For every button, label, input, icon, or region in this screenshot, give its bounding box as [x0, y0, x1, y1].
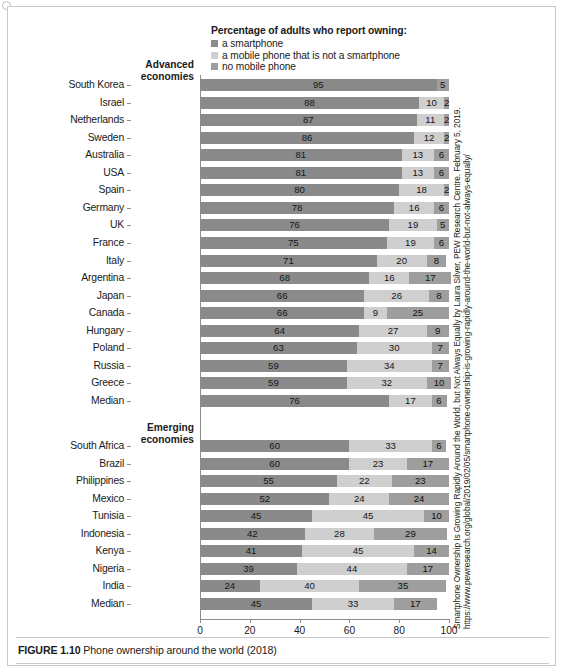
row-label: Netherlands [16, 113, 124, 127]
bar-segment-value: 66 [200, 307, 364, 319]
bar-segment-no-mobile-phone: 17 [394, 598, 436, 610]
bar-segment-no-mobile-phone: 24 [389, 493, 449, 505]
row-tick-mark [127, 348, 131, 349]
bar-segment-a-mobile-phone-that-is-not-a-smartphone: 45 [302, 545, 414, 557]
bar-segment-value: 71 [200, 255, 377, 267]
bar-segment-value: 17 [389, 395, 431, 407]
x-axis-tick [449, 619, 450, 623]
bar-segment-a-smartphone: 86 [200, 132, 414, 144]
row-label: Poland [16, 341, 124, 355]
chart-row: UK76195 [16, 218, 444, 232]
chart-row: USA81136 [16, 166, 444, 180]
bar-segment-value: 23 [349, 458, 406, 470]
bar-segment-value: 24 [329, 493, 389, 505]
bar-segment-no-mobile-phone: 2 [444, 132, 449, 144]
row-label: Canada [16, 306, 124, 320]
stacked-bar: 87112 [200, 114, 449, 126]
chart-row: South Africa60336 [16, 439, 444, 453]
bar-segment-a-mobile-phone-that-is-not-a-smartphone: 19 [387, 237, 434, 249]
stacked-bar: 80182 [200, 184, 449, 196]
bar-segment-value: 30 [357, 342, 432, 354]
bar-segment-value: 17 [407, 563, 449, 575]
chart-row: Nigeria394417 [16, 562, 444, 576]
row-tick-mark [127, 138, 131, 139]
row-label: South Africa [16, 439, 124, 453]
bar-segment-a-smartphone: 59 [200, 360, 347, 372]
bar-segment-value: 7 [432, 360, 449, 372]
bar-segment-a-smartphone: 81 [200, 167, 402, 179]
row-tick-mark [127, 551, 131, 552]
stacked-bar: 552223 [200, 475, 449, 487]
figure-card: Percentage of adults who report owning: … [7, 6, 556, 666]
x-axis-tick [399, 619, 400, 623]
row-label: Argentina [16, 271, 124, 285]
row-label: South Korea [16, 78, 124, 92]
row-tick-mark [127, 481, 131, 482]
bar-segment-a-smartphone: 66 [200, 307, 364, 319]
row-tick-mark [127, 173, 131, 174]
bar-segment-no-mobile-phone: 5 [437, 79, 449, 91]
stacked-bar: 422829 [200, 528, 449, 540]
stacked-bar: 593210 [200, 377, 449, 389]
chart-row: France75196 [16, 236, 444, 250]
figure-caption-text: Phone ownership around the world (2018) [83, 644, 276, 656]
bar-segment-a-smartphone: 39 [200, 563, 297, 575]
row-tick-mark [127, 534, 131, 535]
bar-segment-a-mobile-phone-that-is-not-a-smartphone: 26 [364, 290, 429, 302]
stacked-bar: 64279 [200, 325, 449, 337]
bar-segment-value: 45 [200, 510, 312, 522]
row-label: USA [16, 166, 124, 180]
row-tick-mark [127, 243, 131, 244]
bar-segment-value: 16 [394, 202, 434, 214]
chart-row: Philippines552223 [16, 474, 444, 488]
chart-row: Median76176 [16, 394, 444, 408]
bar-segment-a-smartphone: 41 [200, 545, 302, 557]
bar-segment-no-mobile-phone: 7 [432, 342, 449, 354]
row-tick-mark [127, 155, 131, 156]
bar-segment-no-mobile-phone: 17 [407, 458, 449, 470]
row-label: Indonesia [16, 527, 124, 541]
row-tick-mark [127, 190, 131, 191]
stacked-bar: 75196 [200, 237, 449, 249]
bar-segment-value: 17 [394, 598, 436, 610]
bar-segment-value: 88 [200, 97, 419, 109]
bar-segment-a-smartphone: 81 [200, 149, 402, 161]
row-label: Germany [16, 201, 124, 215]
bar-segment-a-mobile-phone-that-is-not-a-smartphone: 20 [377, 255, 427, 267]
stacked-bar: 414514 [200, 545, 449, 557]
chart-row: Tunisia454510 [16, 509, 444, 523]
bar-segment-no-mobile-phone: 6 [432, 395, 447, 407]
bar-segment-value: 39 [200, 563, 297, 575]
stacked-bar: 60336 [200, 440, 449, 452]
chart-row: Germany78166 [16, 201, 444, 215]
source-credit-text: Smartphone Ownership Is Growing Rapidly … [452, 89, 472, 629]
bar-segment-no-mobile-phone: 6 [432, 440, 447, 452]
bar-segment-a-mobile-phone-that-is-not-a-smartphone: 16 [369, 272, 409, 284]
bar-segment-a-mobile-phone-that-is-not-a-smartphone: 30 [357, 342, 432, 354]
bar-segment-no-mobile-phone: 2 [444, 184, 449, 196]
bar-segment-no-mobile-phone: 8 [429, 290, 449, 302]
bar-segment-a-smartphone: 63 [200, 342, 357, 354]
chart-row: Canada66925 [16, 306, 444, 320]
bar-segment-no-mobile-phone: 5 [437, 219, 449, 231]
bar-segment-no-mobile-phone: 25 [387, 307, 449, 319]
bar-segment-value: 6 [434, 237, 449, 249]
row-label: Median [16, 597, 124, 611]
stacked-bar: 88102 [200, 97, 449, 109]
bar-segment-a-mobile-phone-that-is-not-a-smartphone: 23 [349, 458, 406, 470]
stacked-bar: 59347 [200, 360, 449, 372]
bar-segment-value: 75 [200, 237, 387, 249]
bar-segment-value: 2 [444, 97, 449, 109]
x-axis-tick [250, 619, 251, 623]
row-label: Philippines [16, 474, 124, 488]
bar-segment-value: 13 [402, 149, 434, 161]
bar-segment-value: 13 [402, 167, 434, 179]
bar-segment-value: 34 [347, 360, 432, 372]
bar-segment-value: 2 [444, 132, 449, 144]
row-tick-mark [127, 278, 131, 279]
row-label: Mexico [16, 492, 124, 506]
bar-segment-value: 28 [305, 528, 375, 540]
bar-segment-no-mobile-phone: 6 [434, 202, 449, 214]
bar-segment-a-mobile-phone-that-is-not-a-smartphone: 24 [329, 493, 389, 505]
bar-segment-a-smartphone: 42 [200, 528, 305, 540]
